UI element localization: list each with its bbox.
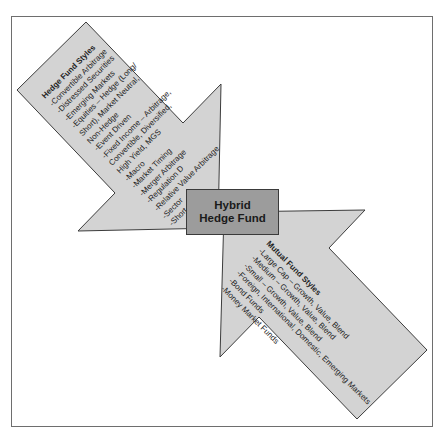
hybrid-hedge-fund-box: Hybrid Hedge Fund xyxy=(186,189,279,235)
center-box-line1: Hybrid xyxy=(214,199,250,212)
center-box-line2: Hedge Fund xyxy=(199,212,265,225)
